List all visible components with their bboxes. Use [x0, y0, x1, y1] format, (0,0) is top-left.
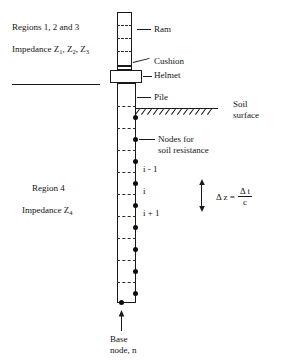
- cushion-leader-line: [133, 58, 150, 63]
- impedance-4-label: Impedance Z4: [22, 205, 72, 218]
- ram-label: Ram: [154, 24, 171, 35]
- soil-hatch-mark: [201, 109, 206, 115]
- helmet-label: Helmet: [154, 70, 181, 81]
- region-4-label: Region 4: [32, 183, 65, 194]
- impedance-z3-subscript: 3: [86, 48, 89, 55]
- pile-segment-line-8: [117, 260, 136, 261]
- soil-hatch-mark: [195, 109, 200, 115]
- pile-segment-line-2: [117, 128, 136, 129]
- soil-hatch-mark: [177, 109, 182, 115]
- delta-z-equation-denominator: c: [238, 197, 252, 207]
- soil-hatch-mark: [147, 109, 152, 115]
- ram-body: [117, 12, 132, 66]
- pile-segment-line-9: [117, 282, 136, 283]
- cushion-label: Cushion: [154, 56, 184, 67]
- soil-resistance-label-line1: Nodes for: [158, 134, 194, 145]
- pile-node: [133, 159, 138, 164]
- delta-z-equation: Δ z =Δ tc: [216, 186, 252, 207]
- pile-node: [133, 247, 138, 252]
- soil-surface-label-line1: Soil: [233, 99, 248, 110]
- pile-node: [133, 181, 138, 186]
- soil-hatch-mark: [207, 109, 212, 115]
- soil-hatch-mark: [153, 109, 158, 115]
- delta-z-equation-lhs: Δ z =: [216, 192, 235, 202]
- pile-segment-line-3: [117, 150, 136, 151]
- soil-hatch-mark: [165, 109, 170, 115]
- pile-node: [133, 137, 138, 142]
- delta-z-arrow-heads: [196, 179, 208, 212]
- pile-node: [133, 115, 138, 120]
- soil-resistance-leader-line: [139, 139, 155, 140]
- pile-segment-line-6: [117, 216, 136, 217]
- ram-segment-line-1: [117, 25, 132, 26]
- ram-segment-line-2: [117, 38, 132, 39]
- soil-hatch-mark: [183, 109, 188, 115]
- region-divider-line: [12, 84, 100, 85]
- pile-node: [133, 291, 138, 296]
- impedance-123-text: Impedance Z: [12, 44, 59, 54]
- pile-leader-line: [137, 97, 151, 98]
- pile-node: [133, 225, 138, 230]
- ram-segment-line-3: [117, 51, 132, 52]
- delta-z-equation-numerator: Δ t: [238, 186, 252, 197]
- node-index-i: i: [143, 186, 146, 197]
- pile-segment-line-5: [117, 194, 136, 195]
- soil-hatch-mark: [171, 109, 176, 115]
- impedance-123-label: Impedance Z1, Z2, Z3: [12, 44, 89, 57]
- pile-base-node: [119, 300, 124, 305]
- soil-hatch-mark: [159, 109, 164, 115]
- pile-segment-line-7: [117, 238, 136, 239]
- base-node-label-line2: node, n: [110, 345, 137, 356]
- pile-node: [133, 269, 138, 274]
- soil-hatch-mark: [141, 109, 146, 115]
- impedance-4-text: Impedance Z: [22, 205, 69, 215]
- pile-label: Pile: [154, 92, 168, 103]
- pile-node: [133, 203, 138, 208]
- pile-segment-line-1: [117, 106, 136, 107]
- node-index-i-minus-1: i - 1: [143, 164, 158, 175]
- base-node-label-line1: Base: [110, 334, 128, 345]
- node-index-i-plus-1: i + 1: [143, 208, 160, 219]
- impedance-z4-subscript: 4: [69, 209, 72, 216]
- base-node-arrow-head: [116, 310, 127, 320]
- soil-resistance-label-line2: soil resistance: [158, 145, 209, 156]
- helmet-body: [110, 70, 142, 83]
- soil-hatch-mark: [189, 109, 194, 115]
- soil-surface-label-line2: surface: [233, 110, 259, 121]
- pile-driving-diagram: Ram Cushion Helmet Pile Soil surface: [0, 0, 282, 361]
- pile-segment-line-4: [117, 172, 136, 173]
- ram-leader-line: [137, 29, 151, 30]
- helmet-leader-line: [143, 76, 152, 77]
- delta-z-equation-fraction: Δ tc: [238, 186, 252, 207]
- regions-123-label: Regions 1, 2 and 3: [12, 22, 79, 33]
